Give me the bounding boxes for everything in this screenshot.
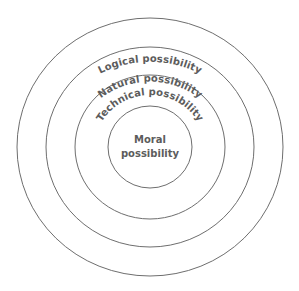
label-logical-text: Logical possibility <box>96 53 204 76</box>
label-moral-line1: Moral <box>134 134 166 145</box>
ring-moral-possibility <box>108 106 192 188</box>
possibility-diagram: Logical possibility Natural possibility … <box>0 0 299 291</box>
label-moral-line2: possibility <box>121 148 180 159</box>
label-logical-possibility: Logical possibility <box>96 53 204 76</box>
